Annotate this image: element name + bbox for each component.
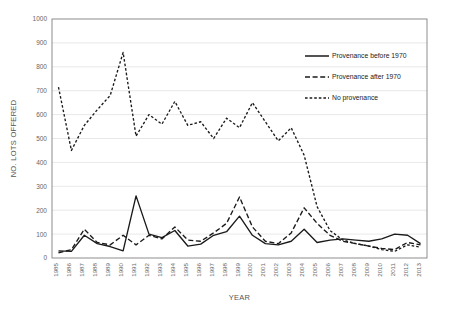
x-tick-label: 1989: [104, 262, 111, 276]
x-tick-label: 1986: [65, 262, 72, 276]
y-tick-label: 500: [36, 135, 47, 142]
chart-container: 0100200300400500600700800900100019851986…: [0, 0, 459, 312]
x-tick-label: 1991: [130, 262, 137, 276]
y-tick-label: 600: [36, 111, 47, 118]
x-tick-label: 2012: [402, 262, 409, 276]
y-tick-label: 300: [36, 183, 47, 190]
y-tick-label: 400: [36, 159, 47, 166]
y-tick-label: 100: [36, 231, 47, 238]
x-tick-label: 1988: [91, 262, 98, 276]
x-tick-label: 1993: [156, 262, 163, 276]
x-tick-label: 1994: [169, 262, 176, 276]
y-tick-label: 900: [36, 39, 47, 46]
x-tick-label: 2001: [259, 262, 266, 276]
x-tick-label: 2002: [272, 262, 279, 276]
series-line-2: [58, 197, 420, 253]
x-axis-title: YEAR: [229, 293, 251, 302]
legend-label-1: Provenance before 1970: [332, 52, 407, 59]
x-tick-label: 2004: [298, 262, 305, 276]
series-line-3: [58, 52, 420, 251]
x-tick-label: 2011: [389, 262, 396, 276]
series-group: [58, 52, 420, 252]
x-tick-label: 1997: [208, 262, 215, 276]
legend-label-2: Provenance after 1970: [332, 73, 401, 80]
line-chart: 0100200300400500600700800900100019851986…: [0, 0, 459, 312]
x-tick-label: 2005: [311, 262, 318, 276]
x-tick-label: 1987: [78, 262, 85, 276]
y-axis-title: NO. LOTS OFFERED: [9, 99, 18, 177]
x-tick-labels: 1985198619871988198919901991199219931994…: [52, 262, 421, 276]
x-tick-label: 1999: [234, 262, 241, 276]
x-tick-label: 2013: [415, 262, 422, 276]
x-tick-label: 1996: [195, 262, 202, 276]
x-tick-label: 1990: [117, 262, 124, 276]
legend-label-3: No provenance: [332, 94, 378, 102]
x-tick-label: 2003: [285, 262, 292, 276]
x-tick-label: 2000: [246, 262, 253, 276]
legend: Provenance before 1970Provenance after 1…: [305, 52, 407, 102]
x-tick-label: 1995: [182, 262, 189, 276]
x-tick-label: 2008: [350, 262, 357, 276]
x-tick-label: 1985: [52, 262, 59, 276]
x-tick-label: 2007: [337, 262, 344, 276]
x-tick-label: 2009: [363, 262, 370, 276]
y-gridlines: [52, 43, 427, 234]
y-tick-label: 700: [36, 87, 47, 94]
x-tick-label: 2006: [324, 262, 331, 276]
x-tick-label: 1998: [221, 262, 228, 276]
x-tick-label: 2010: [376, 262, 383, 276]
y-tick-label: 0: [43, 254, 47, 261]
y-tick-label: 200: [36, 207, 47, 214]
y-tick-label: 800: [36, 63, 47, 70]
y-tick-label: 1000: [33, 15, 48, 22]
x-tick-label: 1992: [143, 262, 150, 276]
